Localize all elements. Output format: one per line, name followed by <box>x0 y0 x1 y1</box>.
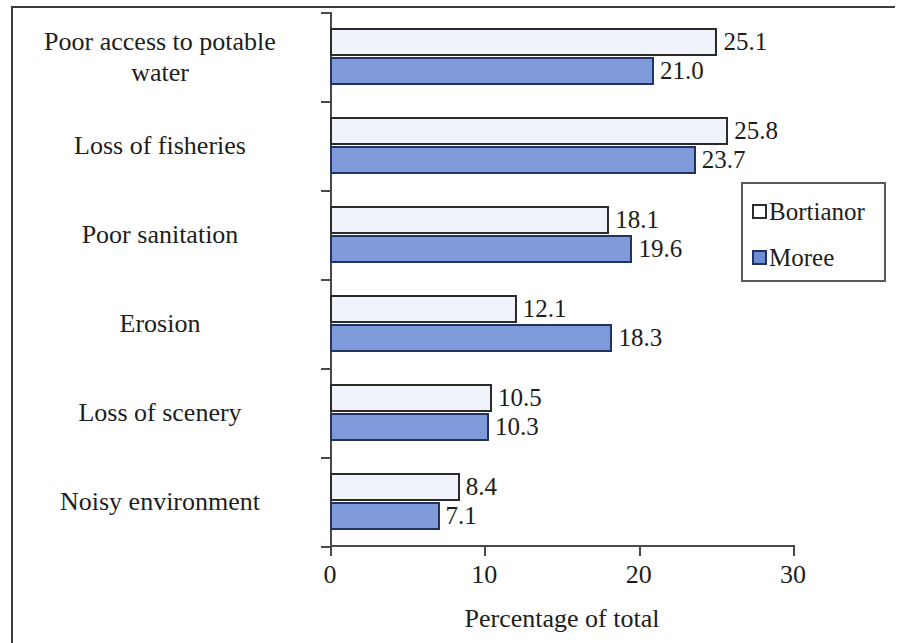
category-label-line: Loss of fisheries <box>10 130 310 161</box>
bar-value-label: 8.4 <box>466 473 497 500</box>
bar-bortianor <box>330 117 728 145</box>
y-axis-tick <box>321 190 330 192</box>
legend-swatch-icon <box>752 250 767 265</box>
bar-bortianor <box>330 295 517 323</box>
bar-value-label: 18.1 <box>615 206 659 233</box>
category-label: Poor sanitation <box>10 219 310 250</box>
bar-value-label: 12.1 <box>523 295 567 322</box>
bar-value-label: 10.3 <box>495 413 539 440</box>
legend-label: Moree <box>769 244 834 271</box>
bar-moree <box>330 235 632 263</box>
legend-swatch-icon <box>752 204 767 219</box>
legend-item: Moree <box>752 244 834 271</box>
bar-bortianor <box>330 384 492 412</box>
category-label: Loss of scenery <box>10 397 310 428</box>
bar-bortianor <box>330 28 717 56</box>
chart-page: Poor access to potablewaterLoss of fishe… <box>0 0 904 643</box>
bar-bortianor <box>330 473 460 501</box>
chart-legend: BortianorMoree <box>741 182 886 282</box>
x-axis-tick-label: 20 <box>609 560 669 590</box>
x-axis-tick-label: 10 <box>454 560 514 590</box>
x-axis-tick <box>639 545 641 556</box>
bar-moree <box>330 57 654 85</box>
x-axis-tick-label: 0 <box>300 560 360 590</box>
bar-value-label: 23.7 <box>702 146 746 173</box>
category-label-line: Erosion <box>10 308 310 339</box>
bar-moree <box>330 324 612 352</box>
category-label-line: Poor sanitation <box>10 219 310 250</box>
legend-label: Bortianor <box>769 198 865 225</box>
category-label-line: Poor access to potable <box>10 26 310 57</box>
category-label-line: water <box>10 57 310 88</box>
y-axis-tick <box>321 12 330 14</box>
y-axis-tick <box>321 279 330 281</box>
plot-area: 25.121.025.823.718.119.612.118.310.510.3… <box>330 12 793 546</box>
y-axis-tick <box>321 457 330 459</box>
x-axis-tick <box>793 545 795 556</box>
bar-value-label: 7.1 <box>446 502 477 529</box>
x-axis-title: Percentage of total <box>330 604 794 634</box>
y-axis-tick <box>321 368 330 370</box>
x-axis-tick <box>330 545 332 556</box>
bar-bortianor <box>330 206 609 234</box>
legend-item: Bortianor <box>752 198 865 225</box>
category-label-line: Loss of scenery <box>10 397 310 428</box>
bar-value-label: 18.3 <box>618 324 662 351</box>
bar-value-label: 25.8 <box>734 117 778 144</box>
bar-moree <box>330 413 489 441</box>
x-axis-tick-label: 30 <box>763 560 823 590</box>
category-label: Erosion <box>10 308 310 339</box>
category-label-line: Noisy environment <box>10 486 310 517</box>
bar-moree <box>330 146 696 174</box>
category-label: Poor access to potablewater <box>10 26 310 88</box>
bar-moree <box>330 502 440 530</box>
y-axis-tick <box>321 101 330 103</box>
bar-value-label: 19.6 <box>638 235 682 262</box>
x-axis-tick <box>484 545 486 556</box>
bar-value-label: 21.0 <box>660 57 704 84</box>
y-axis-tick <box>321 546 330 548</box>
bar-value-label: 25.1 <box>723 28 767 55</box>
category-label: Noisy environment <box>10 486 310 517</box>
category-label: Loss of fisheries <box>10 130 310 161</box>
bar-value-label: 10.5 <box>498 384 542 411</box>
